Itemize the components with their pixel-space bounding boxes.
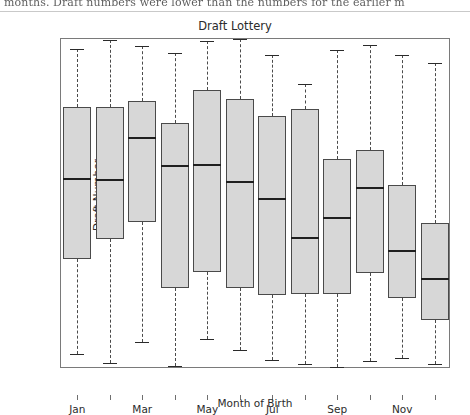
upper-whisker-cap xyxy=(265,55,279,56)
iqr-box xyxy=(226,99,254,288)
upper-whisker-line xyxy=(77,49,78,107)
iqr-box xyxy=(356,150,384,273)
boxplot-may xyxy=(193,39,221,367)
lower-whisker-cap xyxy=(233,350,247,351)
scanned-text-fragment: months. Draft numbers were lower than th… xyxy=(4,0,405,9)
upper-whisker-cap xyxy=(70,49,84,50)
lower-whisker-line xyxy=(370,273,371,361)
lower-whisker-cap xyxy=(103,363,117,364)
median-line xyxy=(258,198,286,200)
boxplot-apr xyxy=(161,39,189,367)
boxplot-jan xyxy=(63,39,91,367)
iqr-box xyxy=(388,185,416,298)
boxplot-aug xyxy=(291,39,319,367)
upper-whisker-cap xyxy=(363,45,377,46)
upper-whisker-cap xyxy=(200,41,214,42)
boxplot-chart: Draft Lottery Draft Number 0100200300 Ja… xyxy=(0,12,470,414)
lower-whisker-cap xyxy=(298,364,312,365)
lower-whisker-line xyxy=(110,239,111,363)
median-line xyxy=(388,250,416,252)
iqr-box xyxy=(291,109,319,294)
upper-whisker-line xyxy=(175,53,176,122)
lower-whisker-line xyxy=(305,294,306,364)
iqr-box xyxy=(421,223,449,320)
iqr-box xyxy=(258,116,286,295)
upper-whisker-cap xyxy=(233,39,247,40)
upper-whisker-line xyxy=(272,55,273,115)
boxplot-jul xyxy=(258,39,286,367)
lower-whisker-cap xyxy=(135,342,149,343)
upper-whisker-line xyxy=(435,63,436,223)
upper-whisker-line xyxy=(110,40,111,107)
x-axis-label: Month of Birth xyxy=(60,397,450,409)
median-line xyxy=(161,165,189,167)
median-line xyxy=(226,181,254,183)
chart-title: Draft Lottery xyxy=(0,19,470,33)
upper-whisker-line xyxy=(402,55,403,185)
plot-area: Draft Number 0100200300 JanMarMayJulSepN… xyxy=(60,38,450,368)
lower-whisker-cap xyxy=(330,367,344,368)
iqr-box xyxy=(96,107,124,240)
lower-whisker-cap xyxy=(70,354,84,355)
median-line xyxy=(421,278,449,280)
boxplot-feb xyxy=(96,39,124,367)
lower-whisker-line xyxy=(240,288,241,350)
lower-whisker-line xyxy=(435,320,436,363)
lower-whisker-line xyxy=(402,298,403,358)
boxplot-nov xyxy=(388,39,416,367)
upper-whisker-line xyxy=(240,39,241,99)
iqr-box xyxy=(128,101,156,222)
lower-whisker-cap xyxy=(395,358,409,359)
upper-whisker-cap xyxy=(395,55,409,56)
lower-whisker-line xyxy=(77,259,78,354)
boxplot-sep xyxy=(323,39,351,367)
upper-whisker-line xyxy=(207,41,208,91)
median-line xyxy=(63,178,91,180)
lower-whisker-cap xyxy=(168,366,182,367)
upper-whisker-cap xyxy=(168,53,182,54)
median-line xyxy=(193,164,221,166)
lower-whisker-line xyxy=(207,272,208,340)
median-line xyxy=(128,137,156,139)
lower-whisker-cap xyxy=(200,339,214,340)
boxplot-jun xyxy=(226,39,254,367)
lower-whisker-cap xyxy=(428,364,442,365)
upper-whisker-line xyxy=(337,50,338,159)
median-line xyxy=(291,237,319,239)
lower-whisker-cap xyxy=(265,360,279,361)
lower-whisker-cap xyxy=(363,361,377,362)
upper-whisker-cap xyxy=(330,50,344,51)
median-line xyxy=(323,217,351,219)
lower-whisker-line xyxy=(142,222,143,342)
boxplot-dec xyxy=(421,39,449,367)
upper-whisker-line xyxy=(370,45,371,150)
iqr-box xyxy=(323,159,351,294)
upper-whisker-cap xyxy=(428,63,442,64)
iqr-box xyxy=(161,123,189,288)
boxplot-mar xyxy=(128,39,156,367)
boxplot-oct xyxy=(356,39,384,367)
lower-whisker-line xyxy=(337,294,338,367)
lower-whisker-line xyxy=(272,295,273,360)
upper-whisker-cap xyxy=(298,84,312,85)
iqr-box xyxy=(63,107,91,259)
lower-whisker-line xyxy=(175,288,176,366)
upper-whisker-line xyxy=(305,84,306,109)
upper-whisker-line xyxy=(142,46,143,101)
median-line xyxy=(96,179,124,181)
upper-whisker-cap xyxy=(135,46,149,47)
iqr-box xyxy=(193,90,221,271)
median-line xyxy=(356,187,384,189)
upper-whisker-cap xyxy=(103,40,117,41)
